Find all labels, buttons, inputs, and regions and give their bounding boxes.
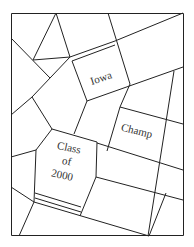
label-class-line2: of [61,154,73,168]
label-iowa: Iowa [89,69,114,87]
street-diagram: Iowa Champ Class of 2000 [0,0,194,247]
label-champ: Champ [120,121,154,140]
label-class-line3: 2000 [50,166,75,182]
label-class-line1: Class [56,139,82,156]
